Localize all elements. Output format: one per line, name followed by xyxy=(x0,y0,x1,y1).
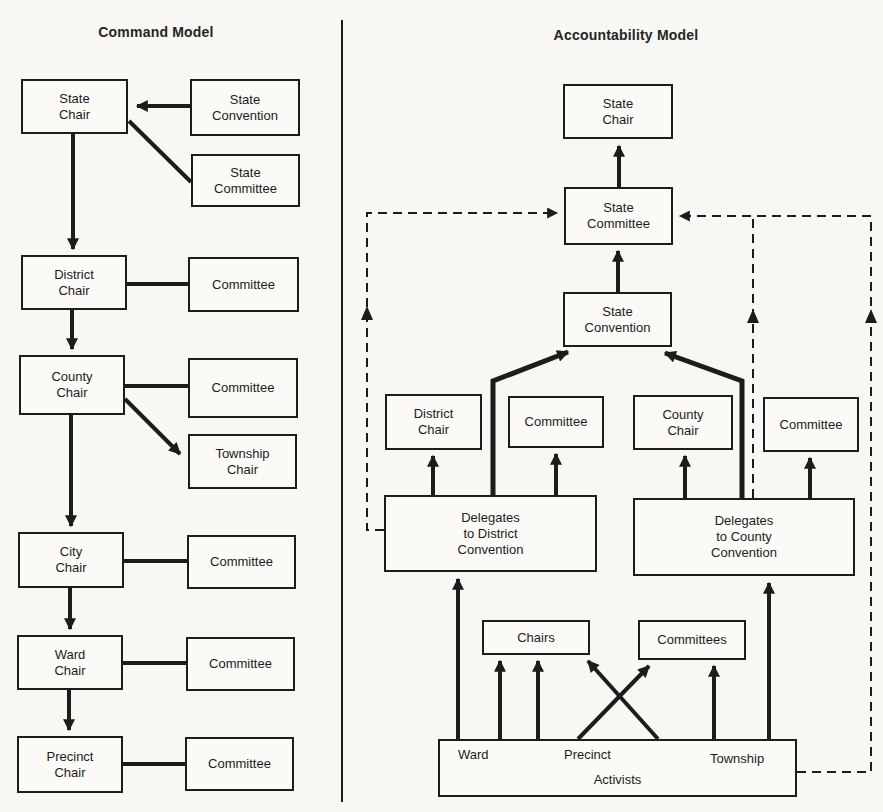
arrow-township-to-chairs xyxy=(588,661,658,739)
acc-node-state-convention: State Convention xyxy=(563,292,672,347)
cmd-node-county-committee: Committee xyxy=(188,358,298,418)
acc-node-chairs: Chairs xyxy=(482,620,590,655)
acc-node-county-committee: Committee xyxy=(763,397,859,452)
cmd-node-state-convention: State Convention xyxy=(190,79,300,136)
cmd-node-precinct-chair: Precinct Chair xyxy=(17,736,123,793)
dashed-up-arrowhead-mid xyxy=(747,309,759,323)
cmd-node-state-chair: State Chair xyxy=(21,79,128,134)
command-model-title: Command Model xyxy=(56,24,256,40)
diagram-canvas: Command Model Accountability Model State… xyxy=(0,0,883,812)
dashed-delegatesdistrict-to-statecommittee xyxy=(367,213,557,530)
acc-node-district-chair: District Chair xyxy=(385,394,482,450)
activists-ward-label: Ward xyxy=(458,747,489,762)
dashed-up-arrowhead-right xyxy=(865,309,877,323)
acc-node-county-chair: County Chair xyxy=(633,395,733,450)
cmd-node-city-committee: Committee xyxy=(187,535,296,589)
acc-node-state-committee: State Committee xyxy=(564,187,673,245)
arrow-precinct-to-committees xyxy=(578,666,649,739)
dashed-up-arrowhead-left xyxy=(361,306,373,320)
activists-title-label: Activists xyxy=(440,772,795,787)
acc-node-activists: Ward Precinct Township Activists xyxy=(438,739,797,797)
acc-node-state-chair: State Chair xyxy=(563,84,673,139)
cmd-node-township-chair: Township Chair xyxy=(188,434,297,489)
cmd-node-city-chair: City Chair xyxy=(18,532,124,588)
acc-node-district-committee: Committee xyxy=(508,396,604,448)
acc-node-delegates-county: Delegates to County Convention xyxy=(633,498,855,576)
cmd-node-district-chair: District Chair xyxy=(21,255,127,310)
cmd-node-county-chair: County Chair xyxy=(19,355,125,415)
acc-node-delegates-district: Delegates to District Convention xyxy=(384,495,597,572)
accountability-model-title: Accountability Model xyxy=(526,27,726,43)
cmd-node-district-committee: Committee xyxy=(188,257,299,312)
arrow-countychair-to-townshipchair xyxy=(125,399,180,454)
cmd-node-ward-committee: Committee xyxy=(186,637,295,691)
dashed-activists-to-statecommittee xyxy=(680,216,871,772)
acc-node-committees: Committees xyxy=(638,620,746,660)
cmd-node-ward-chair: Ward Chair xyxy=(17,635,123,690)
activists-township-label: Township xyxy=(710,751,764,766)
activists-precinct-label: Precinct xyxy=(564,747,611,762)
cmd-node-precinct-committee: Committee xyxy=(185,737,294,791)
line-statecommittee-to-statechair xyxy=(129,121,191,182)
cmd-node-state-committee: State Committee xyxy=(191,154,300,207)
